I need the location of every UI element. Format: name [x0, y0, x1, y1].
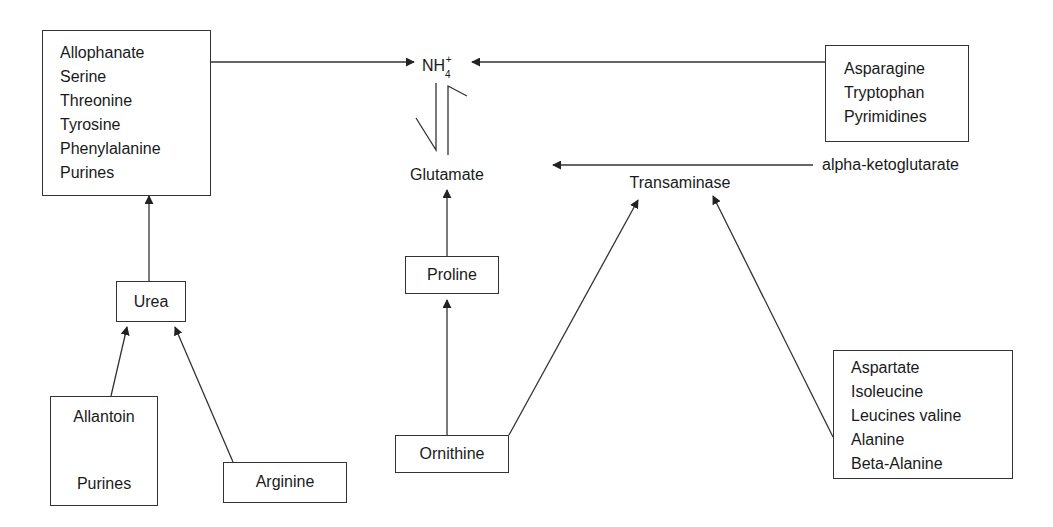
- right-sources-list: Asparagine Tryptophan Pyrimidines: [844, 57, 927, 129]
- list-item: Purines: [60, 161, 161, 185]
- arrow-arginine-to-urea: [175, 327, 233, 462]
- list-item: Beta-Alanine: [851, 452, 961, 476]
- list-item: Alanine: [851, 428, 961, 452]
- arrow-ornithine-to-transaminase: [509, 200, 638, 435]
- allantoin-label: Allantoin: [51, 405, 157, 429]
- ammonium-superscript: +: [446, 54, 452, 65]
- left-sources-box: Allophanate Serine Threonine Tyrosine Ph…: [42, 30, 211, 196]
- arginine-box: Arginine: [223, 462, 347, 503]
- list-item: Asparagine: [844, 57, 927, 81]
- ornithine-box: Ornithine: [395, 435, 509, 473]
- right-sources-box: Asparagine Tryptophan Pyrimidines: [825, 45, 969, 142]
- alpha-ketoglutarate-label: alpha-ketoglutarate: [822, 153, 959, 177]
- ornithine-label: Ornithine: [396, 442, 508, 466]
- list-item: Tyrosine: [60, 113, 161, 137]
- proline-label: Proline: [406, 263, 498, 287]
- ammonium-label: NH4+: [422, 50, 457, 85]
- list-item: Pyrimidines: [844, 105, 927, 129]
- purines-label: Purines: [51, 472, 157, 496]
- list-item: Tryptophan: [844, 81, 927, 105]
- allantoin-box: Allantoin Purines: [50, 396, 158, 506]
- arrow-amino-acids-to-transaminase: [713, 196, 833, 437]
- list-item: Leucines valine: [851, 404, 961, 428]
- glutamate-label: Glutamate: [387, 163, 507, 187]
- transaminase-label: Transaminase: [610, 171, 750, 195]
- list-item: Aspartate: [851, 356, 961, 380]
- equilibrium-up-half-arrow: [448, 86, 467, 155]
- left-sources-list: Allophanate Serine Threonine Tyrosine Ph…: [60, 41, 161, 185]
- ammonium-subscript: 4: [445, 69, 451, 80]
- ammonium-base: NH: [422, 57, 445, 74]
- list-item: Isoleucine: [851, 380, 961, 404]
- list-item: Serine: [60, 65, 161, 89]
- urea-box: Urea: [116, 281, 186, 322]
- equilibrium-down-half-arrow: [416, 83, 436, 150]
- urea-label: Urea: [117, 290, 185, 314]
- list-item: Threonine: [60, 89, 161, 113]
- list-item: Phenylalanine: [60, 137, 161, 161]
- transaminase-sources-box: Aspartate Isoleucine Leucines valine Ala…: [833, 350, 1013, 479]
- arrow-allantoin-to-urea: [111, 327, 127, 396]
- list-item: Allophanate: [60, 41, 161, 65]
- proline-box: Proline: [405, 256, 499, 294]
- arginine-label: Arginine: [224, 470, 346, 494]
- transaminase-sources-list: Aspartate Isoleucine Leucines valine Ala…: [851, 356, 961, 476]
